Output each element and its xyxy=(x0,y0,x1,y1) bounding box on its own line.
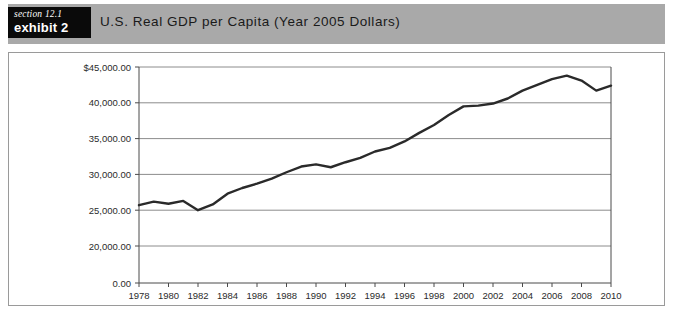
x-tick-label: 1986 xyxy=(246,290,267,301)
x-tick-label: 1988 xyxy=(276,290,297,301)
y-tick-label: 25,000.00 xyxy=(89,205,131,216)
x-tick-label: 2002 xyxy=(482,290,503,301)
x-tick-label: 1994 xyxy=(364,290,385,301)
exhibit-tag: section 12.1 exhibit 2 xyxy=(8,7,91,38)
x-tick-label: 1992 xyxy=(335,290,356,301)
x-tick-label: 1990 xyxy=(305,290,326,301)
y-axis-tick-labels: 0.0020,000.0025,000.0030,000.0035,000.00… xyxy=(83,62,139,289)
y-tick-label: 40,000.00 xyxy=(89,97,131,108)
x-tick-label: 1998 xyxy=(423,290,444,301)
x-tick-label: 2010 xyxy=(600,290,621,301)
y-tick-label: $45,000.00 xyxy=(83,62,131,73)
gdp-data-line xyxy=(139,76,611,211)
y-tick-label: 30,000.00 xyxy=(89,169,131,180)
y-tick-label: 35,000.00 xyxy=(89,133,131,144)
x-tick-label: 1982 xyxy=(187,290,208,301)
x-tick-label: 2000 xyxy=(453,290,474,301)
x-tick-label: 1980 xyxy=(158,290,179,301)
section-label: section 12.1 xyxy=(14,9,91,20)
x-tick-label: 1984 xyxy=(217,290,238,301)
chart-card: 0.0020,000.0025,000.0030,000.0035,000.00… xyxy=(8,52,665,306)
y-tick-label: 0.00 xyxy=(113,278,132,289)
chart-title: U.S. Real GDP per Capita (Year 2005 Doll… xyxy=(100,14,400,29)
x-tick-label: 1978 xyxy=(128,290,149,301)
exhibit-label: exhibit 2 xyxy=(14,20,91,35)
gridlines-group xyxy=(139,67,611,246)
x-tick-label: 2006 xyxy=(541,290,562,301)
y-tick-label: 20,000.00 xyxy=(89,241,131,252)
x-tick-label: 1996 xyxy=(394,290,415,301)
gdp-per-capita-line-chart: 0.0020,000.0025,000.0030,000.0035,000.00… xyxy=(9,53,664,305)
x-axis-tick-labels: 1978198019821984198619881990199219941996… xyxy=(128,283,621,301)
x-tick-label: 2004 xyxy=(512,290,533,301)
x-tick-label: 2008 xyxy=(571,290,592,301)
